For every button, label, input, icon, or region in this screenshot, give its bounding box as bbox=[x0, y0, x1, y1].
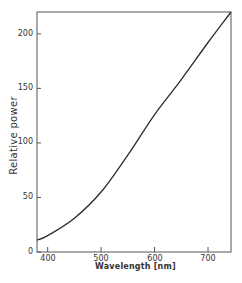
y-axis-label: Relative power bbox=[8, 81, 19, 191]
y-axis-ticks bbox=[37, 34, 41, 252]
chart-canvas bbox=[0, 0, 242, 283]
x-tick-label-700: 700 bbox=[196, 254, 220, 263]
x-tick-label-400: 400 bbox=[36, 254, 60, 263]
plot-frame bbox=[37, 12, 231, 252]
y-tick-label-0: 0 bbox=[13, 247, 33, 256]
x-axis-label: Wavelength [nm] bbox=[95, 262, 176, 271]
x-tick-label-600: 600 bbox=[143, 254, 167, 263]
x-tick-label-500: 500 bbox=[89, 254, 113, 263]
power-curve bbox=[37, 12, 231, 240]
y-tick-label-50: 50 bbox=[13, 192, 33, 201]
y-tick-label-200: 200 bbox=[13, 29, 33, 38]
x-axis-ticks bbox=[48, 247, 208, 252]
y-tick-label-150: 150 bbox=[13, 83, 33, 92]
y-tick-label-100: 100 bbox=[13, 137, 33, 146]
